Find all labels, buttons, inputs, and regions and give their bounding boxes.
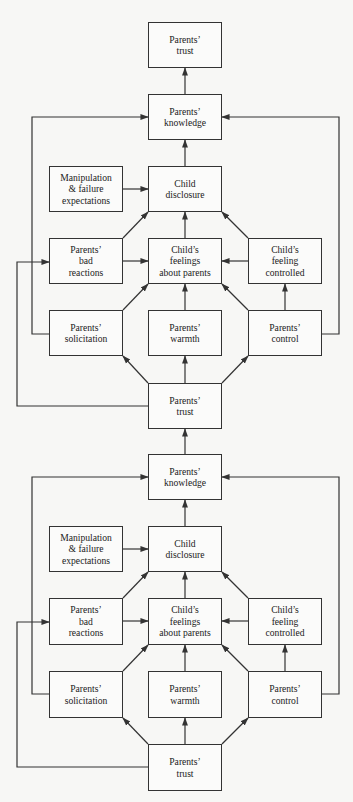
node-knowledge-1: Parents’ knowledge — [148, 94, 222, 140]
node-disclosure-2: Child disclosure — [148, 526, 222, 572]
node-manip-1: Manipulation & failure expectations — [49, 166, 123, 212]
node-manip-2: Manipulation & failure expectations — [49, 526, 123, 572]
node-feelings-2: Child’s feelings about parents — [148, 598, 222, 645]
arrow-trust-mid-to-control-1 — [222, 356, 248, 383]
node-warmth-1: Parents’ warmth — [148, 310, 222, 356]
arrow-controlled-2-to-disclosure-2 — [222, 572, 248, 598]
arrow-trust-bottom-to-solicitation-2 — [123, 718, 148, 744]
node-label: Parents’ knowledge — [164, 466, 206, 489]
node-trust-bottom: Parents’ trust — [148, 744, 222, 791]
node-label: Child disclosure — [166, 538, 205, 561]
node-solicitation-1: Parents’ solicitation — [49, 310, 123, 356]
arrow-bad-1-to-disclosure-1 — [123, 212, 148, 238]
arrow-control-1-to-feelings-1 — [222, 284, 248, 310]
node-label: Parents’ bad reactions — [69, 244, 104, 279]
node-knowledge-2: Parents’ knowledge — [148, 454, 222, 500]
node-label: Parents’ control — [269, 322, 300, 345]
arrow-trust-bottom-to-control-2 — [222, 718, 248, 744]
node-label: Child’s feelings about parents — [159, 244, 210, 279]
node-label: Child’s feeling controlled — [266, 604, 305, 639]
node-label: Parents’ solicitation — [65, 322, 108, 345]
node-label: Parents’ trust — [169, 395, 200, 418]
node-label: Parents’ knowledge — [164, 106, 206, 129]
node-label: Parents’ solicitation — [65, 683, 108, 706]
node-label: Parents’ control — [269, 683, 300, 706]
arrow-bad-2-to-disclosure-2 — [123, 572, 148, 598]
node-control-2: Parents’ control — [248, 671, 322, 718]
node-label: Parents’ trust — [169, 756, 200, 779]
node-label: Parents’ bad reactions — [69, 604, 104, 639]
node-label: Parents’ warmth — [169, 683, 200, 706]
arrow-solicitation-1-to-feelings-1 — [123, 284, 148, 310]
arrow-control-2-to-feelings-2 — [222, 645, 248, 671]
node-label: Parents’ warmth — [169, 322, 200, 345]
node-controlled-1: Child’s feeling controlled — [248, 238, 322, 284]
node-bad-2: Parents’ bad reactions — [49, 598, 123, 645]
node-label: Manipulation & failure expectations — [60, 172, 112, 207]
node-label: Child’s feelings about parents — [159, 604, 210, 639]
node-feelings-1: Child’s feelings about parents — [148, 238, 222, 284]
node-label: Manipulation & failure expectations — [60, 532, 112, 567]
node-trust-top: Parents’ trust — [148, 22, 222, 68]
node-controlled-2: Child’s feeling controlled — [248, 598, 322, 645]
node-label: Parents’ trust — [169, 34, 200, 57]
node-disclosure-1: Child disclosure — [148, 166, 222, 212]
arrow-solicitation-2-to-feelings-2 — [123, 645, 148, 671]
node-control-1: Parents’ control — [248, 310, 322, 356]
node-trust-mid: Parents’ trust — [148, 383, 222, 429]
node-label: Child disclosure — [166, 178, 205, 201]
node-warmth-2: Parents’ warmth — [148, 671, 222, 718]
arrow-solicitation-2-to-knowledge-2 — [32, 477, 148, 694]
arrow-control-2-to-knowledge-2 — [222, 477, 339, 694]
node-label: Child’s feeling controlled — [266, 244, 305, 279]
node-solicitation-2: Parents’ solicitation — [49, 671, 123, 718]
diagram-canvas: Parents’ trustParents’ knowledgeManipula… — [0, 0, 353, 802]
arrow-controlled-1-to-disclosure-1 — [222, 212, 248, 238]
node-bad-1: Parents’ bad reactions — [49, 238, 123, 284]
arrow-trust-mid-to-solicitation-1 — [123, 356, 148, 383]
